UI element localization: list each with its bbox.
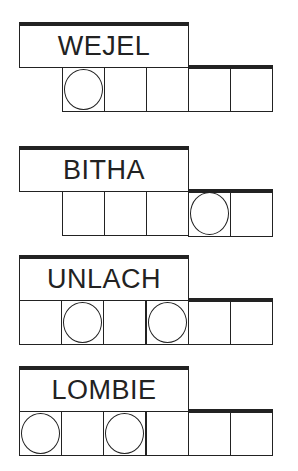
answer-cell-4-1[interactable] [19,411,62,456]
answer-cell-2-5[interactable] [230,189,273,237]
circle-marker-icon [105,413,144,454]
circle-marker-icon [21,413,60,454]
scrambled-word-label: WEJEL [19,22,189,68]
answer-cell-3-1[interactable] [19,300,62,345]
answer-cell-3-2[interactable] [61,300,104,345]
answer-cell-3-3[interactable] [103,300,146,345]
circle-marker-icon [190,192,229,235]
answer-cell-3-6[interactable] [230,298,273,345]
answer-cell-2-2[interactable] [104,191,147,236]
scrambled-word-label: UNLACH [19,255,189,301]
scrambled-word-label: LOMBIE [19,366,189,412]
answer-cell-4-4[interactable] [146,411,189,456]
answer-cell-2-1[interactable] [62,191,105,236]
answer-cell-4-5[interactable] [188,409,231,456]
answer-cell-4-3[interactable] [103,411,146,456]
circle-marker-icon [64,69,103,110]
answer-cell-1-4[interactable] [188,65,231,112]
answer-cell-1-2[interactable] [104,67,147,112]
circle-marker-icon [148,302,187,343]
answer-cell-4-2[interactable] [61,411,104,456]
answer-cell-1-3[interactable] [146,67,189,112]
answer-cell-4-6[interactable] [230,409,273,456]
answer-cell-1-5[interactable] [230,65,273,112]
scrambled-word-label: BITHA [19,146,189,192]
answer-cell-3-5[interactable] [188,298,231,345]
answer-cell-2-3[interactable] [146,191,189,236]
answer-cell-3-4[interactable] [146,300,189,345]
circle-marker-icon [63,302,102,343]
answer-cell-1-1[interactable] [62,67,105,112]
answer-cell-2-4[interactable] [188,189,231,237]
